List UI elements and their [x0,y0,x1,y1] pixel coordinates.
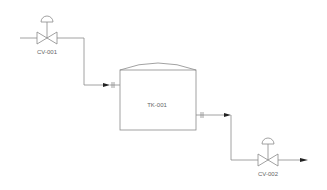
control-valve-cv002[interactable] [258,138,278,166]
flow-arrow-icon [224,113,231,117]
control-valve-cv001[interactable] [37,16,57,44]
label-tk001: TK-001 [147,102,167,108]
tank-tk001[interactable] [120,63,196,130]
label-cv001: CV-001 [37,49,57,55]
label-cv002: CV-002 [258,171,278,177]
flow-arrow-icon [300,158,308,162]
pid-diagram-canvas [0,0,327,190]
flow-arrow-icon [103,83,110,87]
pipe-cv001-to-tank [57,38,103,85]
